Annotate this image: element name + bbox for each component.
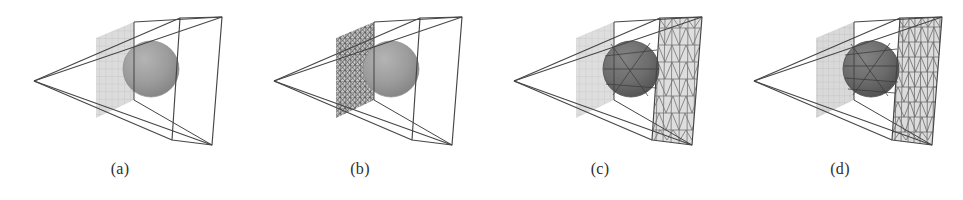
caption-a: (a) [0, 158, 240, 180]
frustum-diagram-a [0, 0, 240, 158]
figure-root: (a) [0, 0, 963, 200]
caption-b: (b) [240, 158, 480, 180]
caption-c: (c) [480, 158, 720, 180]
sphere-d [843, 41, 899, 97]
frustum-diagram-d [720, 0, 960, 158]
sphere-a [123, 41, 179, 97]
subfigure-panel-b: (b) [240, 0, 480, 200]
frustum-diagram-c [480, 0, 720, 158]
frustum-diagram-b [240, 0, 480, 158]
subfigure-panel-a: (a) [0, 0, 240, 200]
subfigure-panel-c: (c) [480, 0, 720, 200]
subfigure-panel-d: (d) [720, 0, 960, 200]
sphere-c [603, 41, 659, 97]
caption-d: (d) [720, 158, 960, 180]
sphere-b [363, 41, 419, 97]
